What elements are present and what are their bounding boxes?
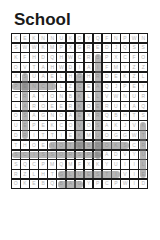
grid-cell[interactable]: H: [30, 53, 38, 61]
grid-cell[interactable]: U: [30, 73, 38, 81]
grid-cell[interactable]: A: [67, 112, 75, 120]
grid-cell[interactable]: O: [94, 141, 102, 149]
grid-cell[interactable]: L: [57, 83, 65, 91]
grid-cell[interactable]: O: [67, 121, 75, 129]
grid-cell[interactable]: X: [85, 112, 93, 120]
grid-cell[interactable]: I: [57, 131, 65, 139]
grid-cell[interactable]: M: [112, 63, 120, 71]
grid-cell[interactable]: W: [30, 44, 38, 52]
grid-cell[interactable]: C: [103, 180, 111, 188]
grid-cell[interactable]: E: [48, 73, 56, 81]
grid-cell[interactable]: S: [76, 151, 84, 159]
grid-cell[interactable]: X: [121, 102, 129, 110]
grid-cell[interactable]: H: [67, 73, 75, 81]
grid-cell[interactable]: Y: [121, 63, 129, 71]
grid-cell[interactable]: H: [57, 53, 65, 61]
grid-cell[interactable]: A: [30, 92, 38, 100]
grid-cell[interactable]: C: [21, 151, 29, 159]
grid-cell[interactable]: S: [121, 141, 129, 149]
grid-cell[interactable]: U: [94, 131, 102, 139]
grid-cell[interactable]: E: [94, 102, 102, 110]
grid-cell[interactable]: B: [67, 92, 75, 100]
grid-cell[interactable]: E: [39, 121, 47, 129]
grid-cell[interactable]: I: [30, 151, 38, 159]
grid-cell[interactable]: Y: [85, 34, 93, 42]
grid-cell[interactable]: E: [21, 121, 29, 129]
grid-cell[interactable]: L: [139, 73, 147, 81]
grid-cell[interactable]: O: [39, 102, 47, 110]
grid-cell[interactable]: Q: [103, 112, 111, 120]
grid-cell[interactable]: F: [103, 63, 111, 71]
grid-cell[interactable]: T: [48, 170, 56, 178]
grid-cell[interactable]: X: [12, 73, 20, 81]
grid-cell[interactable]: Y: [85, 180, 93, 188]
grid-cell[interactable]: P: [103, 53, 111, 61]
grid-cell[interactable]: O: [139, 53, 147, 61]
grid-cell[interactable]: F: [76, 160, 84, 168]
grid-cell[interactable]: A: [94, 83, 102, 91]
grid-cell[interactable]: I: [94, 63, 102, 71]
grid-cell[interactable]: H: [39, 170, 47, 178]
grid-cell[interactable]: I: [130, 180, 138, 188]
grid-cell[interactable]: O: [12, 180, 20, 188]
grid-cell[interactable]: D: [103, 44, 111, 52]
grid-cell[interactable]: O: [12, 63, 20, 71]
grid-cell[interactable]: K: [94, 160, 102, 168]
grid-cell[interactable]: M: [48, 160, 56, 168]
grid-cell[interactable]: B: [112, 112, 120, 120]
grid-cell[interactable]: O: [103, 131, 111, 139]
grid-cell[interactable]: I: [130, 170, 138, 178]
grid-cell[interactable]: I: [121, 160, 129, 168]
grid-cell[interactable]: O: [85, 121, 93, 129]
grid-cell[interactable]: K: [48, 121, 56, 129]
grid-cell[interactable]: S: [12, 44, 20, 52]
grid-cell[interactable]: P: [39, 160, 47, 168]
grid-cell[interactable]: K: [112, 141, 120, 149]
grid-cell[interactable]: T: [12, 141, 20, 149]
grid-cell[interactable]: E: [48, 102, 56, 110]
grid-cell[interactable]: N: [139, 34, 147, 42]
grid-cell[interactable]: G: [112, 131, 120, 139]
grid-cell[interactable]: G: [39, 112, 47, 120]
grid-cell[interactable]: E: [85, 83, 93, 91]
grid-cell[interactable]: K: [139, 121, 147, 129]
grid-cell[interactable]: L: [139, 160, 147, 168]
grid-cell[interactable]: E: [21, 34, 29, 42]
grid-cell[interactable]: T: [103, 170, 111, 178]
grid-cell[interactable]: T: [139, 131, 147, 139]
grid-cell[interactable]: K: [76, 131, 84, 139]
grid-cell[interactable]: S: [94, 121, 102, 129]
grid-cell[interactable]: M: [48, 44, 56, 52]
grid-cell[interactable]: G: [121, 131, 129, 139]
grid-cell[interactable]: D: [139, 180, 147, 188]
grid-cell[interactable]: L: [67, 170, 75, 178]
grid-cell[interactable]: E: [94, 44, 102, 52]
grid-cell[interactable]: A: [130, 102, 138, 110]
grid-cell[interactable]: P: [85, 151, 93, 159]
grid-cell[interactable]: T: [130, 112, 138, 120]
grid-cell[interactable]: R: [30, 102, 38, 110]
grid-cell[interactable]: N: [48, 112, 56, 120]
grid-cell[interactable]: K: [12, 53, 20, 61]
grid-cell[interactable]: S: [12, 151, 20, 159]
grid-cell[interactable]: E: [67, 131, 75, 139]
grid-cell[interactable]: K: [30, 34, 38, 42]
grid-cell[interactable]: K: [21, 180, 29, 188]
grid-cell[interactable]: S: [21, 112, 29, 120]
grid-cell[interactable]: Y: [130, 151, 138, 159]
grid-cell[interactable]: J: [112, 44, 120, 52]
grid-cell[interactable]: W: [130, 131, 138, 139]
grid-cell[interactable]: J: [112, 83, 120, 91]
grid-cell[interactable]: Z: [130, 63, 138, 71]
grid-cell[interactable]: P: [121, 83, 129, 91]
word-search-grid[interactable]: KEKNNUKOYQFNPWNSWWKMPXGREDJQSSKFHDQHWCRB…: [11, 33, 148, 189]
grid-cell[interactable]: X: [85, 160, 93, 168]
grid-cell[interactable]: Q: [48, 180, 56, 188]
grid-cell[interactable]: R: [85, 53, 93, 61]
grid-cell[interactable]: P: [94, 180, 102, 188]
grid-cell[interactable]: Z: [139, 63, 147, 71]
grid-cell[interactable]: V: [130, 121, 138, 129]
grid-cell[interactable]: P: [12, 83, 20, 91]
grid-cell[interactable]: O: [57, 112, 65, 120]
grid-cell[interactable]: I: [76, 63, 84, 71]
